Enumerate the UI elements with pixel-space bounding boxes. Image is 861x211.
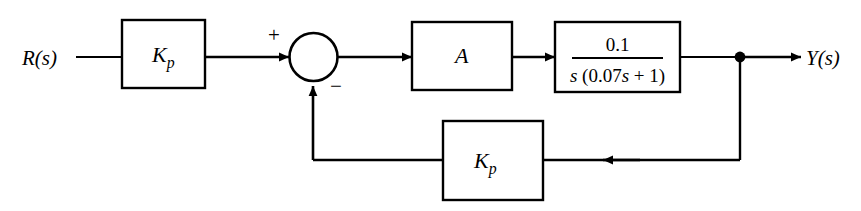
- output-takeoff-node: [735, 52, 746, 63]
- summing-junction-minus-sign: −: [330, 74, 342, 98]
- block-diagram-svg: R(s) Y(s) + − Kp A 0.1 s (0.07s + 1) Kp: [0, 0, 861, 211]
- plant-numerator: 0.1: [606, 34, 630, 55]
- forward-gain-K: K: [151, 42, 168, 67]
- plant-denominator-var: s: [622, 65, 629, 86]
- plant-denominator-paren-close: ): [659, 65, 665, 87]
- block-diagram-canvas: R(s) Y(s) + − Kp A 0.1 s (0.07s + 1) Kp: [0, 0, 861, 211]
- plant-denominator-plus: +: [634, 65, 645, 86]
- input-signal-label: R(s): [21, 46, 57, 70]
- plant-denominator-const: 1: [649, 65, 659, 86]
- forward-gain-subscript: p: [166, 54, 175, 72]
- block-amplifier-label: A: [453, 43, 469, 68]
- plant-denominator: s (0.07s + 1): [570, 65, 665, 87]
- plant-denominator-s: s: [570, 65, 577, 86]
- plant-denominator-coeff: 0.07: [588, 65, 621, 86]
- summing-junction-plus-sign: +: [268, 23, 280, 47]
- feedback-gain-K: K: [473, 148, 490, 173]
- output-signal-label: Y(s): [806, 46, 840, 70]
- feedback-gain-subscript: p: [488, 160, 497, 178]
